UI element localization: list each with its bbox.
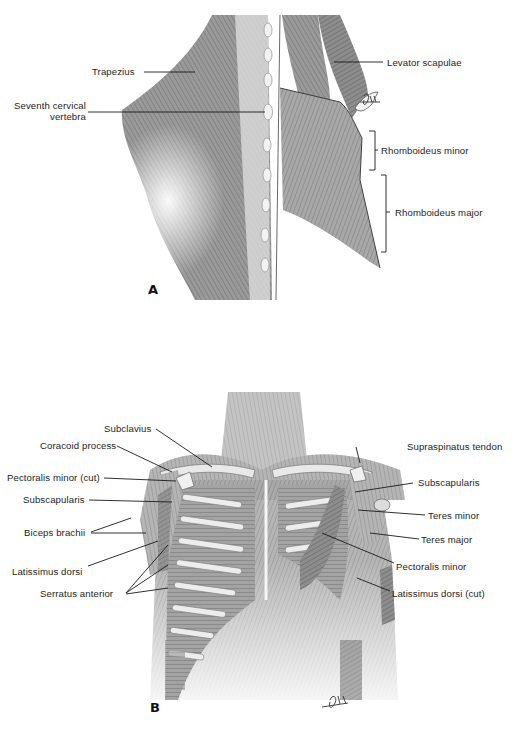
rhomboid-muscles [280,88,380,268]
label-subscapularis-right: Subscapularis [418,477,480,488]
bracket-rhomboideus-major [381,175,390,252]
label-trapezius: Trapezius [92,66,135,77]
label-seventh-cervical-line1: Seventh cervical [14,100,86,111]
label-seventh-cervical-vertebra: Seventh cervical vertebra [12,100,86,122]
label-rhomboideus-major: Rhomboideus major [395,207,483,218]
label-subclavius: Subclavius [104,423,151,434]
leader-coracoid-process [117,446,172,472]
label-coracoid-process: Coracoid process [40,440,116,451]
label-serratus-anterior: Serratus anterior [40,588,113,599]
label-teres-minor: Teres minor [428,510,479,521]
label-rhomboideus-minor: Rhomboideus minor [381,145,469,156]
label-teres-major: Teres major [421,534,472,545]
label-biceps-brachii: Biceps brachii [24,527,85,538]
label-levator-scapulae: Levator scapulae [387,57,462,68]
label-latissimus-dorsi: Latissimus dorsi [12,566,82,577]
panel-letter-b: B [150,700,160,715]
leader-biceps-brachii-1 [91,518,131,532]
label-latissimus-dorsi-cut: Latissimus dorsi (cut) [392,588,485,599]
panel-letter-a: A [148,282,158,297]
label-pectoralis-minor: Pectoralis minor [396,561,466,572]
label-seventh-cervical-line2: vertebra [50,111,86,122]
panel-b-art [140,392,410,710]
label-supraspinatus-tendon: Supraspinatus tendon [407,441,502,452]
label-subscapularis-left: Subscapularis [23,494,85,505]
label-pectoralis-minor-cut: Pectoralis minor (cut) [7,472,100,483]
bracket-rhomboideus-minor [369,131,378,170]
panel-a-art [120,15,380,300]
